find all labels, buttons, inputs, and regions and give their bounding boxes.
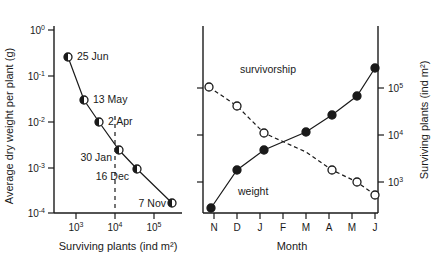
survivorship-marker-5 <box>371 191 379 199</box>
right-month-label-2: J <box>258 222 263 233</box>
left-marker-7-nov <box>168 199 176 207</box>
left-panel: Average dry weight per plant (g) 100 10-… <box>3 24 182 252</box>
right-x-axis-title: Month <box>277 240 308 252</box>
left-data-markers <box>64 53 176 207</box>
left-y-ticks <box>48 30 54 213</box>
left-point-label-13-may: 13 May <box>93 93 128 105</box>
right-y-axis-title: Surviving plants (ind m²) <box>418 61 430 180</box>
survivorship-markers <box>205 83 379 199</box>
right-y-tick-labels: 105 104 103 <box>388 82 403 188</box>
right-x-ticks <box>214 213 375 219</box>
figure-root: Average dry weight per plant (g) 100 10-… <box>0 0 433 261</box>
right-month-label-7: J <box>373 222 378 233</box>
left-x-axis-title: Surviving plants (ind m²) <box>59 240 178 252</box>
weight-marker-1 <box>233 166 241 174</box>
survivorship-marker-0 <box>205 83 213 91</box>
right-panel: 105 104 103 Surviving plants (ind m²) N … <box>197 26 430 252</box>
right-y-tick-label-4: 104 <box>388 129 403 141</box>
left-marker-30-jan <box>115 146 123 154</box>
right-month-label-1: D <box>233 222 240 233</box>
survivorship-series-label: survivorship <box>240 63 296 75</box>
left-y-tick-label-1: 10-1 <box>28 70 45 82</box>
survivorship-marker-2 <box>260 129 268 137</box>
left-marker-16-dec <box>133 165 141 173</box>
right-month-label-0: N <box>210 222 217 233</box>
left-marker-25-jun <box>64 53 72 61</box>
weight-marker-6 <box>371 64 379 72</box>
weight-marker-2 <box>260 146 268 154</box>
left-point-label-16-dec: 16 Dec <box>96 170 129 182</box>
left-y-tick-label-0: 100 <box>30 24 45 36</box>
left-y-tick-labels: 100 10-1 10-2 10-3 10-4 <box>28 24 45 219</box>
left-marker-2-apr <box>95 118 103 126</box>
right-y-tick-label-3: 103 <box>388 176 403 188</box>
survivorship-marker-1 <box>233 102 241 110</box>
right-y-ticks <box>378 88 384 182</box>
left-x-tick-labels: 103 104 105 <box>68 221 161 233</box>
right-x-tick-labels: N D J F M A M J <box>210 222 377 233</box>
survivorship-marker-4 <box>353 178 361 186</box>
left-point-label-2-apr: 2 Apr <box>108 115 133 127</box>
left-x-tick-label-0: 103 <box>68 221 83 233</box>
weight-marker-4 <box>328 111 336 119</box>
left-y-tick-label-4: 10-4 <box>28 207 45 219</box>
weight-series-label: weight <box>237 185 268 197</box>
left-x-ticks <box>76 213 154 219</box>
weight-line <box>211 68 375 208</box>
survivorship-marker-3 <box>328 166 336 174</box>
left-point-label-25-jun: 25 Jun <box>77 50 109 62</box>
left-point-label-7-nov: 7 Nov <box>139 197 167 209</box>
right-month-label-3: F <box>280 222 286 233</box>
right-y-tick-label-5: 105 <box>388 82 403 94</box>
right-month-label-5: A <box>326 222 333 233</box>
right-month-label-4: M <box>302 222 310 233</box>
left-y-axis-title: Average dry weight per plant (g) <box>3 48 15 204</box>
left-y-tick-label-2: 10-2 <box>28 116 45 128</box>
right-month-label-6: M <box>348 222 356 233</box>
left-point-label-30-jan: 30 Jan <box>80 151 112 163</box>
left-x-tick-label-1: 104 <box>107 221 122 233</box>
weight-marker-3 <box>302 128 310 136</box>
left-marker-13-may <box>80 96 88 104</box>
right-panel-left-ticks <box>197 88 203 182</box>
weight-marker-5 <box>353 92 361 100</box>
left-x-tick-label-2: 105 <box>146 221 161 233</box>
left-y-tick-label-3: 10-3 <box>28 162 45 174</box>
weight-marker-0 <box>207 204 215 212</box>
